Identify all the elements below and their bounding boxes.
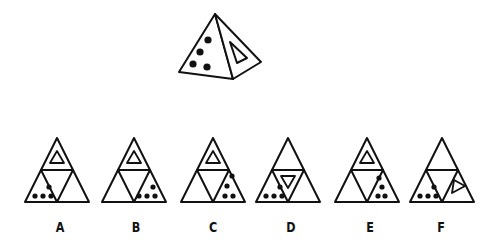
option-e[interactable]: [331, 134, 405, 246]
option-f[interactable]: [405, 134, 479, 246]
question-pyramid: [179, 14, 261, 79]
option-d[interactable]: [252, 134, 326, 246]
option-a[interactable]: [22, 134, 96, 246]
option-b[interactable]: [97, 134, 171, 246]
option-c[interactable]: [176, 134, 250, 246]
